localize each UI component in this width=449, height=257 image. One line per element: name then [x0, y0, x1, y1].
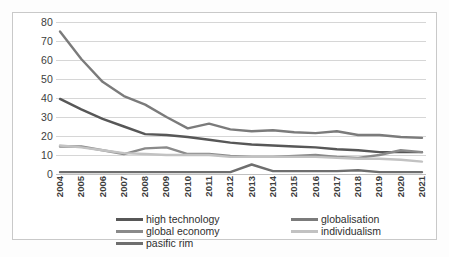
x-tick-label-2011: 2011 — [203, 176, 217, 197]
legend-swatch-icon — [116, 230, 143, 233]
y-tick-label-80: 80 — [41, 16, 53, 28]
x-tick-label-2017: 2017 — [331, 176, 345, 197]
x-tick-label-2021: 2021 — [416, 176, 430, 197]
x-tick-label-2014: 2014 — [267, 176, 281, 197]
x-tick-label-2013: 2013 — [246, 176, 260, 197]
x-tick-label-2020: 2020 — [395, 176, 409, 197]
chart-legend: high technologyglobalisationglobal econo… — [56, 213, 426, 249]
series-layer — [56, 22, 426, 174]
x-tick-label-2010: 2010 — [182, 176, 196, 197]
legend-item-high-technology[interactable]: high technology — [116, 213, 220, 225]
legend-label: globalisation — [321, 213, 379, 225]
legend-label: individualism — [321, 225, 381, 237]
x-tick-label-2007: 2007 — [118, 176, 132, 197]
legend-swatch-icon — [116, 242, 143, 245]
legend-swatch-icon — [291, 230, 318, 233]
y-tick-label-30: 30 — [41, 111, 53, 123]
x-tick-label-2004: 2004 — [54, 176, 68, 197]
y-axis: 01020304050607080 — [25, 22, 53, 174]
x-tick-label-2006: 2006 — [97, 176, 111, 197]
x-tick-label-2009: 2009 — [160, 176, 174, 197]
chart-frame: 01020304050607080 2004200520062007200820… — [12, 12, 437, 240]
series-line-individualism — [60, 146, 422, 162]
y-tick-label-70: 70 — [41, 35, 53, 47]
figure-container: 01020304050607080 2004200520062007200820… — [0, 0, 449, 257]
legend-swatch-icon — [291, 218, 318, 221]
x-tick-label-2018: 2018 — [352, 176, 366, 197]
x-tick-label-2019: 2019 — [373, 176, 387, 197]
x-tick-label-2012: 2012 — [224, 176, 238, 197]
y-tick-label-20: 20 — [41, 130, 53, 142]
series-line-high-technology — [60, 99, 422, 152]
legend-label: high technology — [146, 213, 220, 225]
y-tick-label-50: 50 — [41, 73, 53, 85]
legend-item-globalisation[interactable]: globalisation — [291, 213, 379, 225]
x-tick-label-2015: 2015 — [288, 176, 302, 197]
y-tick-label-0: 0 — [47, 168, 53, 180]
x-tick-label-2005: 2005 — [75, 176, 89, 197]
series-line-pasific-rim — [60, 165, 422, 173]
y-tick-label-60: 60 — [41, 54, 53, 66]
y-tick-label-10: 10 — [41, 149, 53, 161]
legend-swatch-icon — [116, 218, 143, 221]
legend-item-global-economy[interactable]: global economy — [116, 225, 220, 237]
figure-caption — [40, 247, 440, 256]
x-tick-label-2008: 2008 — [139, 176, 153, 197]
x-tick-label-2016: 2016 — [310, 176, 324, 197]
legend-label: global economy — [146, 225, 220, 237]
x-axis: 2004200520062007200820092010201120122013… — [56, 176, 426, 216]
y-tick-label-40: 40 — [41, 92, 53, 104]
legend-item-individualism[interactable]: individualism — [291, 225, 381, 237]
plot-area — [56, 22, 426, 174]
gridline-0 — [56, 174, 426, 175]
